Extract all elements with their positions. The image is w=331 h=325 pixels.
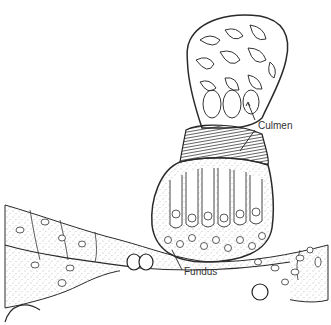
anatomical-drawing bbox=[0, 0, 331, 325]
culmen-label: Culmen bbox=[258, 120, 292, 131]
illustration: Culmen Fundus bbox=[0, 0, 331, 325]
sensory-body bbox=[152, 158, 274, 262]
cupula bbox=[187, 15, 288, 128]
fundus-label: Fundus bbox=[184, 266, 217, 277]
